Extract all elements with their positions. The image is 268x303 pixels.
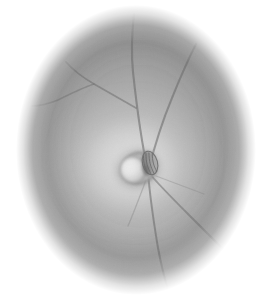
fundus-photograph [0, 0, 268, 303]
fundus-image-viewport: Grayscale retinal fundus photograph show… [0, 0, 268, 303]
fundus-field-of-view [0, 0, 268, 303]
film-grain [0, 0, 268, 303]
